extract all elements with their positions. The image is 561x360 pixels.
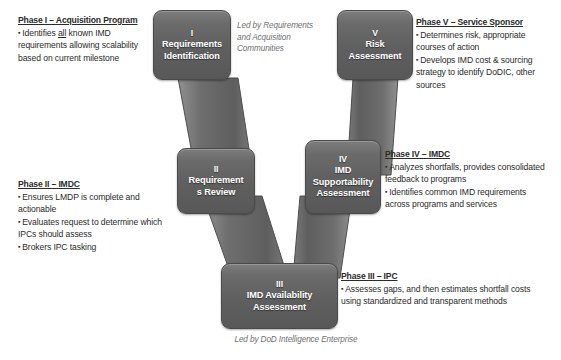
phase-1-bullet: Identifies all known IMD requirements al… bbox=[18, 27, 151, 64]
node-label-line: Identification bbox=[164, 51, 220, 62]
node-requirements-identification[interactable]: I Requirements Identification bbox=[153, 10, 231, 80]
diagram-canvas: I Requirements Identification II Require… bbox=[0, 0, 561, 360]
node-label-line: Assessment bbox=[316, 188, 369, 199]
node-roman-numeral: IV bbox=[339, 154, 347, 165]
phase-4-title: Phase IV – IMDC bbox=[385, 148, 553, 160]
node-roman-numeral: III bbox=[276, 279, 283, 290]
phase-block-4: Phase IV – IMDC Analyzes shortfalls, pro… bbox=[385, 148, 553, 211]
phase-2-bullet: Ensures LMDP is complete and actionable bbox=[18, 191, 170, 216]
node-label-line: IMD Availability bbox=[247, 290, 313, 301]
phase-1-title: Phase I – Acquisition Program bbox=[18, 14, 151, 26]
node-roman-numeral: I bbox=[191, 28, 193, 39]
node-label-line: Risk bbox=[365, 39, 384, 50]
phase-block-3: Phase III – IPC Assesses gaps, and then … bbox=[341, 270, 545, 308]
node-roman-numeral: V bbox=[372, 28, 378, 39]
phase-4-bullet: Identifies common IMD requirements acros… bbox=[385, 186, 553, 211]
phase-3-bullet: Assesses gaps, and then estimates shortf… bbox=[341, 283, 545, 308]
phase-block-1: Phase I – Acquisition Program Identifies… bbox=[18, 14, 151, 64]
node-label-line: IMD bbox=[335, 165, 352, 176]
caption-top: Led by Requirements and Acquisition Comm… bbox=[237, 20, 315, 55]
node-risk-assessment[interactable]: V Risk Assessment bbox=[337, 10, 413, 80]
caption-top-text: Led by Requirements and Acquisition Comm… bbox=[237, 21, 313, 53]
phase-2-bullet: Evaluates request to determine which IPC… bbox=[18, 216, 170, 241]
phase-block-5: Phase V – Service Sponsor Determines ris… bbox=[416, 16, 554, 91]
node-imd-supportability-assessment[interactable]: IV IMD Supportability Assessment bbox=[305, 140, 381, 214]
node-requirements-review[interactable]: II Requirement s Review bbox=[177, 148, 255, 214]
node-label-line: Requirements bbox=[162, 39, 222, 50]
caption-bottom: Led by DoD Intelligence Enterprise bbox=[196, 334, 396, 346]
phase-3-title: Phase III – IPC bbox=[341, 270, 545, 282]
node-imd-availability-assessment[interactable]: III IMD Availability Assessment bbox=[221, 263, 338, 329]
node-label-line: Supportability bbox=[313, 177, 373, 188]
phase-block-2: Phase II – IMDC Ensures LMDP is complete… bbox=[18, 178, 170, 253]
phase-5-bullet: Determines risk, appropriate courses of … bbox=[416, 29, 554, 54]
caption-bottom-text: Led by DoD Intelligence Enterprise bbox=[234, 335, 357, 344]
node-label-line: Assessment bbox=[348, 51, 401, 62]
node-label-line: Assessment bbox=[253, 302, 306, 313]
phase-4-bullet: Analyzes shortfalls, provides consolidat… bbox=[385, 161, 553, 186]
phase-5-bullet: Develops IMD cost & sourcing strategy to… bbox=[416, 54, 554, 91]
node-label-line: s Review bbox=[197, 187, 236, 198]
phase-2-title: Phase II – IMDC bbox=[18, 178, 170, 190]
node-roman-numeral: II bbox=[214, 164, 219, 175]
phase-2-bullet: Brokers IPC tasking bbox=[18, 241, 170, 253]
node-label-line: Requirement bbox=[188, 175, 243, 186]
phase-5-title: Phase V – Service Sponsor bbox=[416, 16, 554, 28]
